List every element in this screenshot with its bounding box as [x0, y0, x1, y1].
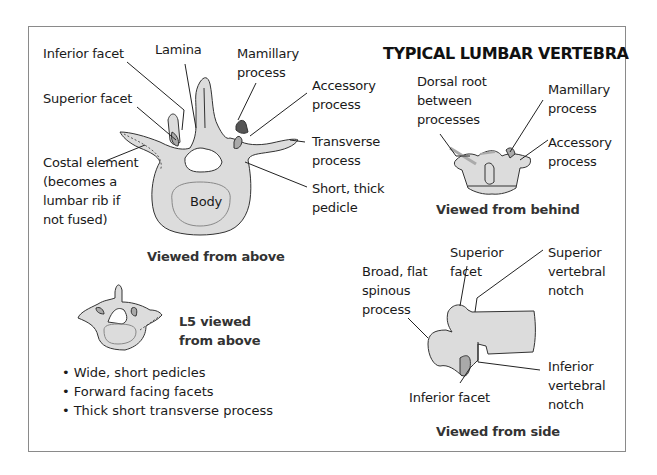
label-accessory-process-2: process [312, 95, 361, 114]
caption-viewed-from-behind: Viewed from behind [436, 202, 580, 217]
label-mamillary-process-2: process [237, 63, 286, 82]
caption-viewed-from-side: Viewed from side [436, 424, 560, 439]
caption-l5-2: from above [179, 333, 260, 348]
l5-feature-item: Wide, short pedicles [62, 363, 273, 382]
label-superior-vertebral-notch-3: notch [548, 281, 584, 300]
label-spinous-process-3: process [362, 300, 411, 319]
label-accessory-process-1: Accessory [312, 76, 376, 95]
label-superior-vertebral-notch-2: vertebral [548, 262, 606, 281]
caption-l5-1: L5 viewed [179, 314, 251, 329]
label-costal-element-1: Costal element [43, 153, 138, 172]
label-behind-mamillary-2: process [548, 99, 597, 118]
label-inferior-vertebral-notch-1: Inferior [548, 357, 593, 376]
label-transverse-process-2: process [312, 151, 361, 170]
label-behind-accessory-2: process [548, 152, 597, 171]
label-mamillary-process-1: Mamillary [237, 44, 299, 63]
vertebra-above-illustration [120, 78, 298, 235]
label-inferior-vertebral-notch-3: notch [548, 395, 584, 414]
label-superior-vertebral-notch-1: Superior [548, 243, 601, 262]
vertebra-l5-illustration [78, 285, 162, 350]
label-side-inferior-facet: Inferior facet [409, 388, 490, 407]
caption-viewed-from-above: Viewed from above [147, 249, 285, 264]
label-spinous-process-1: Broad, flat [362, 262, 427, 281]
l5-feature-item: Thick short transverse process [62, 401, 273, 420]
label-behind-mamillary-1: Mamillary [548, 80, 610, 99]
label-dorsal-root-2: between [417, 91, 472, 110]
vertebra-side-illustration [428, 305, 535, 376]
label-side-superior-facet-2: facet [450, 262, 482, 281]
label-dorsal-root-1: Dorsal root [417, 72, 487, 91]
label-costal-element-2: (becomes a [43, 172, 117, 191]
label-superior-facet: Superior facet [43, 89, 132, 108]
label-spinous-process-2: spinous [362, 281, 410, 300]
label-lamina: Lamina [155, 40, 202, 59]
label-behind-accessory-1: Accessory [548, 133, 612, 152]
label-side-superior-facet-1: Superior [450, 243, 503, 262]
l5-feature-list: Wide, short pedicles Forward facing face… [62, 363, 273, 420]
vertebra-behind-illustration [450, 148, 531, 194]
label-body: Body [190, 192, 222, 211]
diagram-title: TYPICAL LUMBAR VERTEBRA [383, 44, 629, 63]
l5-feature-item: Forward facing facets [62, 382, 273, 401]
label-inferior-vertebral-notch-2: vertebral [548, 376, 606, 395]
label-costal-element-3: lumbar rib if [43, 191, 120, 210]
label-costal-element-4: not fused) [43, 210, 107, 229]
label-short-thick-pedicle-1: Short, thick [312, 179, 384, 198]
label-inferior-facet: Inferior facet [43, 44, 124, 63]
label-short-thick-pedicle-2: pedicle [312, 198, 357, 217]
label-dorsal-root-3: processes [417, 110, 480, 129]
label-transverse-process-1: Transverse [312, 132, 380, 151]
